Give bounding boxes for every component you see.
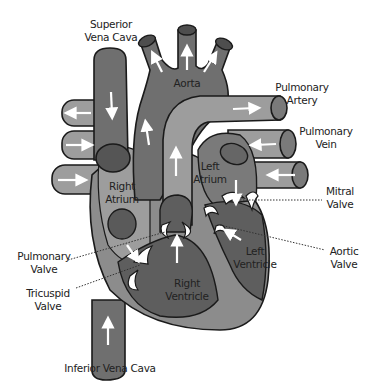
heart-diagram: Superior Vena Cava Aorta Pulmonary Arter… <box>0 0 372 392</box>
label-right-atrium: Right Atrium <box>100 180 144 206</box>
label-mitral-valve: Mitral Valve <box>318 185 362 211</box>
label-aorta: Aorta <box>167 77 207 90</box>
label-pulmonary-vein: Pulmonary Vein <box>296 125 356 151</box>
label-left-atrium: Left Atrium <box>190 160 230 186</box>
label-left-ventricle: Left Ventricle <box>230 245 280 271</box>
label-pulmonary-valve: Pulmonary Valve <box>14 250 74 276</box>
label-aortic-valve: Aortic Valve <box>322 245 366 271</box>
label-inferior-vena-cava: Inferior Vena Cava <box>60 362 160 375</box>
label-superior-vena-cava: Superior Vena Cava <box>76 18 146 44</box>
label-tricuspid-valve: Tricuspid Valve <box>20 287 76 313</box>
label-right-ventricle: Right Ventricle <box>160 277 214 303</box>
superior-vena-cava-opening <box>96 144 130 172</box>
label-pulmonary-artery: Pulmonary Artery <box>272 81 332 107</box>
heart-illustration <box>0 0 372 392</box>
